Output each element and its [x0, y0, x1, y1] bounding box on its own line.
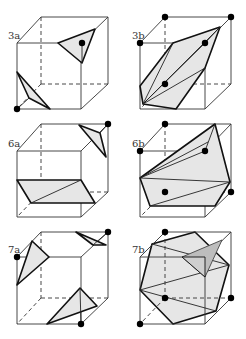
- vertex-dot: [78, 321, 84, 327]
- vertex-dot: [228, 295, 234, 301]
- panel-label: 6b: [132, 138, 145, 149]
- vertex-dot: [162, 189, 168, 195]
- vertex-dot: [228, 189, 234, 195]
- vertex-dot: [137, 321, 143, 327]
- vertex-dot: [105, 121, 111, 127]
- vertex-dot: [202, 148, 208, 154]
- cube-sections-diagram: 3a 3b 6a: [0, 0, 246, 339]
- vertex-dot: [14, 106, 20, 112]
- vertex-dot: [162, 295, 168, 301]
- vertex-dot: [162, 14, 168, 20]
- vertex-dot: [79, 40, 85, 46]
- panel-7b: 7b: [132, 229, 234, 327]
- vertex-dot: [228, 14, 234, 20]
- panel-6b: 6b: [132, 121, 234, 217]
- vertex-dot: [162, 121, 168, 127]
- section-triangle-bottom: [47, 288, 97, 324]
- panel-3a: 3a: [8, 17, 108, 112]
- panel-3b: 3b: [132, 14, 234, 109]
- section-triangle-bottom: [17, 72, 50, 109]
- panel-label: 6a: [8, 138, 20, 149]
- panel-label: 7a: [8, 244, 20, 255]
- vertex-dot: [162, 229, 168, 235]
- panel-label: 3b: [132, 30, 145, 41]
- vertex-dot: [105, 229, 111, 235]
- panel-label: 7b: [132, 244, 145, 255]
- panel-6a: 6a: [8, 121, 111, 217]
- section-triangle-top: [58, 29, 95, 63]
- vertex-dot: [202, 40, 208, 46]
- panel-label: 3a: [8, 30, 20, 41]
- vertex-dot: [162, 81, 168, 87]
- panel-7a: 7a: [8, 229, 111, 327]
- section-triangle-left: [17, 241, 49, 285]
